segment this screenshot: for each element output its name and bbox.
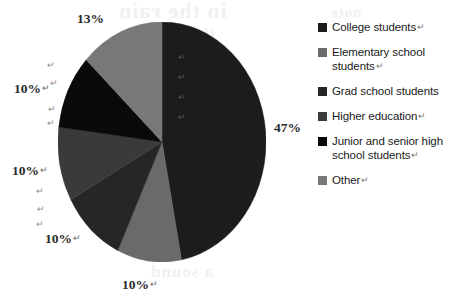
legend-item-label: Elementary school students↵ <box>332 45 468 73</box>
pie-label-grad-school-value: 10% <box>45 231 72 246</box>
legend-item-label: Junior and senior high school students↵ <box>332 134 468 162</box>
pie-label-elementary-value: 10% <box>122 277 149 292</box>
legend-item-label: Higher education↵ <box>332 109 426 123</box>
legend-swatch-icon <box>318 137 327 146</box>
pie-svg <box>58 22 266 262</box>
pie-label-other: 13% <box>77 11 104 27</box>
bleed-through-artifact-4: note <box>330 4 362 21</box>
return-mark-icon: ↵ <box>41 83 50 93</box>
pie-slice[interactable] <box>162 22 266 260</box>
legend-swatch-icon <box>318 48 327 57</box>
return-mark-icon: ↵ <box>149 279 158 289</box>
bleed-through-artifact-3: a sound <box>150 262 213 282</box>
stray-return-mark-icon: ↵ <box>47 118 55 128</box>
legend-item[interactable]: Higher education↵ <box>318 109 468 123</box>
return-mark-icon: ↵ <box>416 22 425 32</box>
pie-label-grad-school: 10%↵ <box>45 231 81 247</box>
pie-slice-group <box>58 22 266 262</box>
legend-item[interactable]: Junior and senior high school students↵ <box>318 134 468 162</box>
pie-label-higher-education-value: 10% <box>12 163 39 178</box>
pie-label-elementary: 10%↵ <box>122 277 158 293</box>
return-mark-icon: ↵ <box>375 61 384 71</box>
pie-chart-figure: in the rain the sun a sound note 13% 47%… <box>0 0 469 305</box>
return-mark-icon: ↵ <box>72 233 81 243</box>
stray-return-mark-icon: ↵ <box>47 60 55 70</box>
legend-item-label: Other↵ <box>332 173 369 187</box>
legend-item[interactable]: Elementary school students↵ <box>318 45 468 73</box>
pie-label-college: 47% <box>274 120 301 136</box>
pie-graphic <box>58 22 266 262</box>
return-mark-icon: ↵ <box>410 150 419 160</box>
legend-item-label: Grad school students <box>332 84 439 98</box>
stray-return-mark-icon: ↵ <box>37 204 45 214</box>
stray-return-mark-icon: ↵ <box>50 78 58 88</box>
pie-label-college-value: 47% <box>274 120 301 135</box>
legend: College students↵Elementary school stude… <box>318 20 468 198</box>
stray-return-mark-icon: ↵ <box>48 104 56 114</box>
legend-swatch-icon <box>318 176 327 185</box>
legend-swatch-icon <box>318 112 327 121</box>
pie-label-higher-education: 10%↵ <box>12 163 48 179</box>
pie-label-junior-senior-high: 10%↵ <box>14 81 50 97</box>
legend-item-label: College students↵ <box>332 20 425 34</box>
return-mark-icon: ↵ <box>39 165 48 175</box>
legend-swatch-icon <box>318 87 327 96</box>
bleed-through-artifact-1: in the rain <box>118 0 227 24</box>
pie-label-other-value: 13% <box>77 11 104 26</box>
legend-item[interactable]: Grad school students <box>318 84 468 98</box>
legend-item[interactable]: Other↵ <box>318 173 468 187</box>
return-mark-icon: ↵ <box>417 111 426 121</box>
legend-swatch-icon <box>318 23 327 32</box>
return-mark-icon: ↵ <box>360 175 369 185</box>
stray-return-mark-icon: ↵ <box>36 186 44 196</box>
pie-label-junior-senior-high-value: 10% <box>14 81 41 96</box>
legend-item[interactable]: College students↵ <box>318 20 468 34</box>
stray-return-mark-icon: ↵ <box>36 219 44 229</box>
